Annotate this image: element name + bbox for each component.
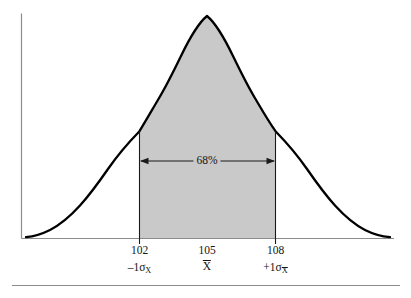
sigma-subscript-right: X [282, 267, 288, 275]
plus-one-text: +1 [263, 261, 275, 273]
sigma-subscript-left: X [145, 267, 151, 275]
x-symbol-label-x-bar: X [203, 261, 211, 273]
x-tick-label-102: 102 [131, 245, 148, 257]
sigma-subscript-right-bar: X [282, 267, 288, 275]
x-tick-label-108: 108 [267, 245, 284, 257]
shaded-area-68-percent [140, 16, 276, 238]
x-tick-label-105: 105 [198, 245, 215, 257]
x-symbol-label-plus-one-sigma: +1σX [263, 262, 287, 276]
minus-one-text: –1 [128, 261, 140, 273]
x-bar-glyph: X [203, 261, 211, 273]
x-symbol-label-minus-one-sigma: –1σX [128, 262, 152, 276]
normal-distribution-figure: 68% 102 105 108 –1σX X +1σX [0, 0, 411, 298]
interval-percent-label: 68% [193, 155, 220, 167]
